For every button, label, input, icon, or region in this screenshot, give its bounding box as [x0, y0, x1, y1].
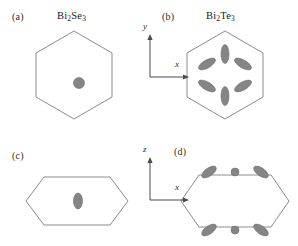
- panel-c-brillouin-zone: [0, 123, 149, 246]
- panel-c: (c): [0, 123, 149, 246]
- fermi-pocket-bottom: [221, 87, 229, 106]
- x-axis-arrowhead-bottom: [183, 197, 189, 202]
- x-axis-label-bottom: x: [175, 182, 179, 192]
- figure-container: (a) Bi2Se3 (b) Bi2Te3: [0, 0, 298, 246]
- fermi-pocket-center: [74, 78, 85, 89]
- fermi-pocket-top: [221, 45, 229, 64]
- z-axis-arrowhead: [147, 157, 152, 163]
- x-axis-arrowhead: [183, 74, 189, 79]
- axis-indicator-bottom: z x: [130, 148, 200, 208]
- panel-a: (a) Bi2Se3: [0, 0, 149, 123]
- z-axis-label: z: [143, 144, 147, 154]
- hexagon-outline-a: [36, 31, 112, 119]
- panel-a-brillouin-zone: [0, 0, 149, 123]
- fermi-pocket-bottom-center: [231, 226, 239, 234]
- y-axis-label: y: [143, 21, 147, 31]
- y-axis-arrowhead: [147, 34, 152, 40]
- x-axis-label-top: x: [175, 59, 179, 69]
- axis-indicator-bottom-svg: [130, 148, 200, 208]
- fermi-pocket-top-center: [231, 168, 239, 176]
- axis-indicator-top-svg: [130, 25, 200, 85]
- axis-indicator-top: y x: [130, 25, 200, 85]
- fermi-pocket-center-side: [74, 193, 83, 209]
